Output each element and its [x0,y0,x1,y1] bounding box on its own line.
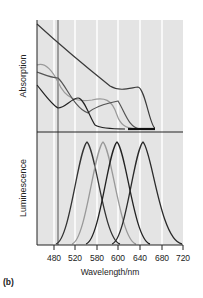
svg-text:580: 580 [90,253,104,263]
svg-text:600: 600 [111,253,125,263]
panel-label: (b) [3,277,14,287]
svg-text:520: 520 [68,253,82,263]
absorption-label: Absorption [18,54,28,97]
absorption-plot-area [37,20,183,132]
svg-text:680: 680 [155,253,169,263]
x-tick-labels: 480 520 580 600 640 680 720 [47,253,190,263]
svg-text:480: 480 [47,253,61,263]
svg-text:640: 640 [133,253,147,263]
x-ticks [54,245,183,250]
x-axis-label: Wavelength/nm [81,267,140,277]
svg-text:720: 720 [176,253,190,263]
absorption-luminescence-chart: 480 520 580 600 640 680 720 Wavelength/n… [0,0,203,298]
luminescence-label: Luminescence [18,159,28,217]
